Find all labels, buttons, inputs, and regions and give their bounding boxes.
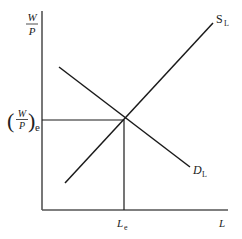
supply-label-subscript: L [224,19,229,28]
equilibrium-quantity-label: L e [116,217,128,232]
y-axis-label-numerator: W [27,11,37,23]
eq-quantity-main: L [116,217,123,229]
labor-market-diagram: W P ( W P ) e L e L S L D L [0,0,242,239]
y-axis-label: W P [26,11,38,37]
y-axis-label-denominator: P [28,25,36,37]
equilibrium-wage-label: ( W P ) e [7,108,40,133]
supply-label: S L [216,12,229,28]
x-axis-label: L [218,217,225,229]
eq-wage-denominator: P [18,120,25,131]
eq-quantity-subscript: e [124,223,128,232]
eq-wage-subscript: e [35,121,40,133]
demand-label-main: D [192,163,202,177]
left-paren: ( [7,108,14,133]
demand-label-subscript: L [202,170,207,179]
supply-curve [65,23,213,183]
supply-label-main: S [216,12,223,26]
eq-wage-numerator: W [18,108,28,119]
demand-label: D L [192,163,207,179]
